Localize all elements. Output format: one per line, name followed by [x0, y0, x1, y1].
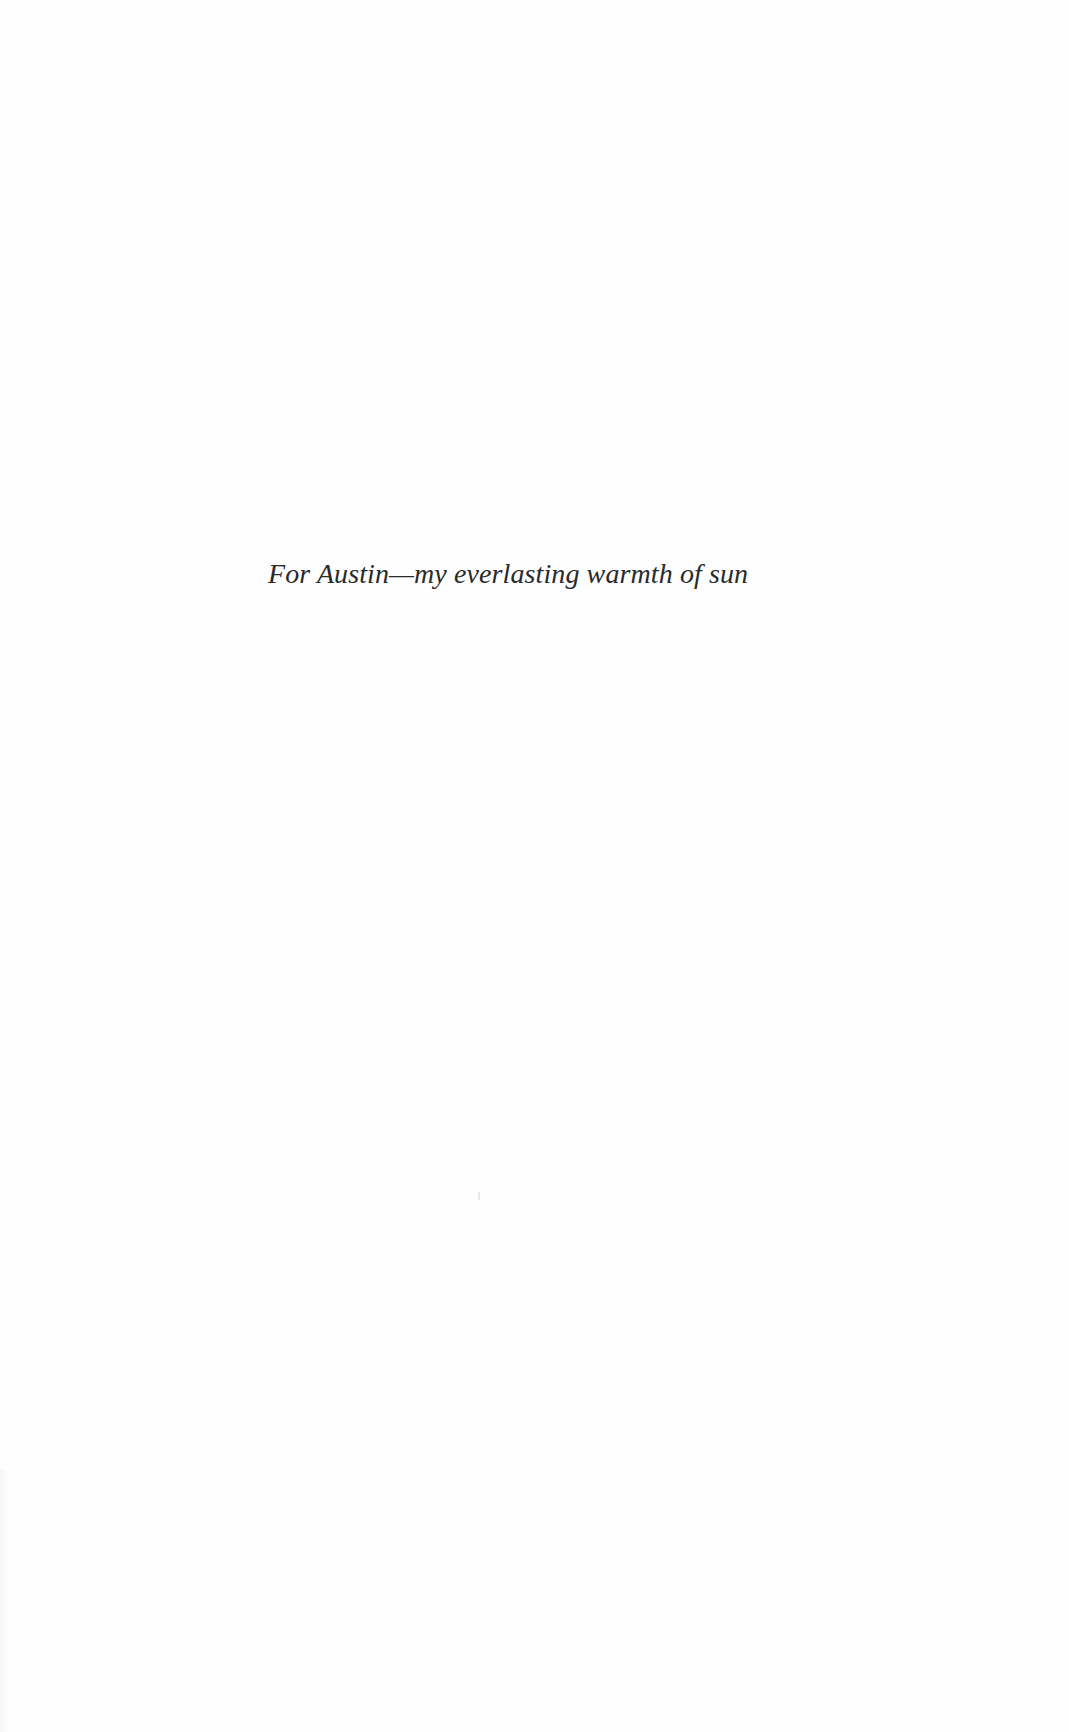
- scan-gutter-shadow: [0, 1470, 8, 1732]
- scan-speck: [478, 1192, 480, 1200]
- dedication-text: For Austin—my everlasting warmth of sun: [268, 558, 748, 590]
- book-page: For Austin—my everlasting warmth of sun: [0, 0, 1069, 1732]
